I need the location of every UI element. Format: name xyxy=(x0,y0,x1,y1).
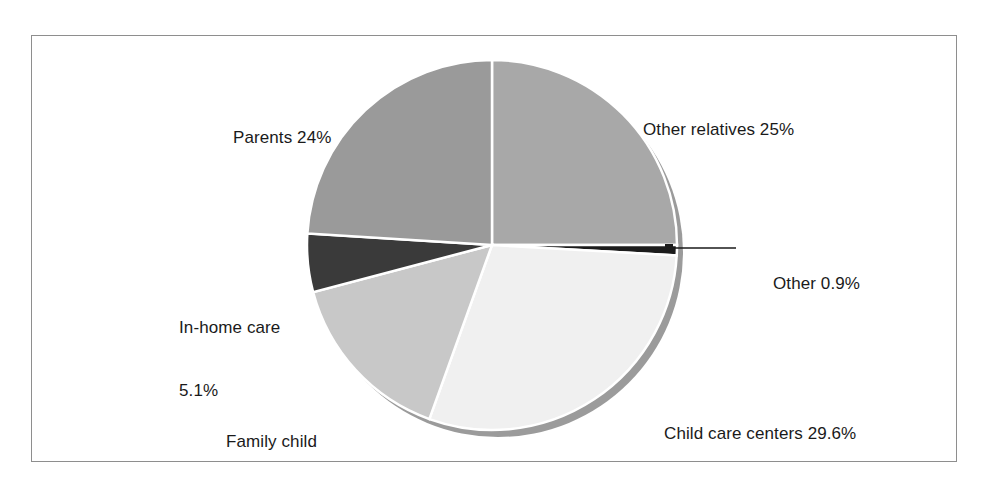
pie-label-other: Other 0.9% xyxy=(773,273,860,294)
pie-chart-figure: Other relatives 25% Parents 24% Other 0.… xyxy=(0,0,994,491)
other-slice-leader-marker xyxy=(665,244,673,252)
pie-label-child-care-centers: Child care centers 29.6% xyxy=(664,423,856,444)
pie-label-in-home-care-line-1: In-home care xyxy=(179,317,280,338)
pie-label-family-child-care-homes: Family child care homes 15.4% xyxy=(226,389,317,491)
chart-plot-area: Other relatives 25% Parents 24% Other 0.… xyxy=(31,35,957,462)
pie-slice-parents[interactable] xyxy=(307,60,492,245)
pie-chart-svg xyxy=(31,35,957,462)
pie-slice-other-relatives[interactable] xyxy=(492,60,677,245)
pie-slices xyxy=(307,60,677,430)
pie-label-parents: Parents 24% xyxy=(233,127,331,148)
pie-label-family-child-care-homes-line-1: Family child xyxy=(226,431,317,452)
pie-label-other-relatives: Other relatives 25% xyxy=(643,119,794,140)
